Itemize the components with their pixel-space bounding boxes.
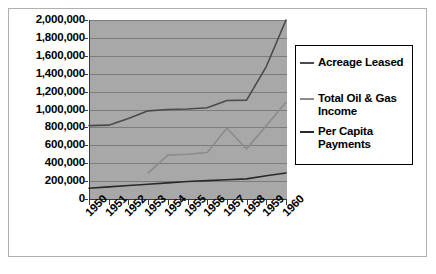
y-axis: 2,000,0001,800,0001,600,0001,400,0001,20… xyxy=(9,9,85,209)
y-axis-tick xyxy=(83,145,88,146)
y-axis-tick xyxy=(83,56,88,57)
x-axis-tick xyxy=(89,200,90,205)
chart-figure-frame: 2,000,0001,800,0001,600,0001,400,0001,20… xyxy=(8,8,427,257)
x-axis-tick xyxy=(188,200,189,205)
x-axis-tick xyxy=(266,200,267,205)
y-axis-tick xyxy=(83,74,88,75)
y-axis-tick xyxy=(83,20,88,21)
x-axis-tick xyxy=(128,200,129,205)
y-axis-tick xyxy=(83,92,88,93)
y-axis-tick-label: 1,800,000 xyxy=(9,32,85,43)
legend-label: Total Oil & Gas Income xyxy=(318,92,412,118)
x-axis-tick xyxy=(247,200,248,205)
y-axis-tick xyxy=(83,110,88,111)
y-axis-tick-label: 2,000,000 xyxy=(9,14,85,25)
y-axis-tick xyxy=(83,38,88,39)
x-axis-tick xyxy=(207,200,208,205)
legend-line-swatch xyxy=(300,98,314,100)
legend-label: Acreage Leased xyxy=(318,56,403,69)
legend-entry: Per Capita Payments xyxy=(300,125,412,151)
y-axis-tick-label: 1,600,000 xyxy=(9,50,85,61)
series-line xyxy=(89,173,286,188)
y-axis-tick xyxy=(83,181,88,182)
y-axis-tick xyxy=(83,127,88,128)
legend-line-swatch xyxy=(300,131,314,133)
x-axis-tick xyxy=(227,200,228,205)
y-axis-tick-label: 400,000 xyxy=(9,157,85,168)
line-chart: 2,000,0001,800,0001,600,0001,400,0001,20… xyxy=(9,9,428,258)
legend-entry: Total Oil & Gas Income xyxy=(300,92,412,118)
y-axis-tick-label: 0 xyxy=(9,193,85,204)
x-axis-tick xyxy=(286,200,287,205)
x-axis-tick xyxy=(168,200,169,205)
series-line xyxy=(148,102,286,173)
x-axis-tick xyxy=(109,200,110,205)
y-axis-tick-label: 1,000,000 xyxy=(9,104,85,115)
x-axis-tick xyxy=(148,200,149,205)
chart-legend: Acreage LeasedTotal Oil & Gas IncomePer … xyxy=(295,45,413,165)
series-line xyxy=(89,20,286,126)
y-axis-tick xyxy=(83,163,88,164)
legend-label: Per Capita Payments xyxy=(318,125,412,151)
legend-entry: Acreage Leased xyxy=(300,56,412,69)
series-layer xyxy=(89,20,287,200)
screenshot-page: 2,000,0001,800,0001,600,0001,400,0001,20… xyxy=(0,0,436,274)
y-axis-tick-label: 800,000 xyxy=(9,121,85,132)
y-axis-tick-label: 1,200,000 xyxy=(9,86,85,97)
y-axis-tick-label: 1,400,000 xyxy=(9,68,85,79)
y-axis-tick-label: 200,000 xyxy=(9,175,85,186)
y-axis-tick xyxy=(83,199,88,200)
legend-line-swatch xyxy=(300,62,314,64)
y-axis-tick-label: 600,000 xyxy=(9,139,85,150)
